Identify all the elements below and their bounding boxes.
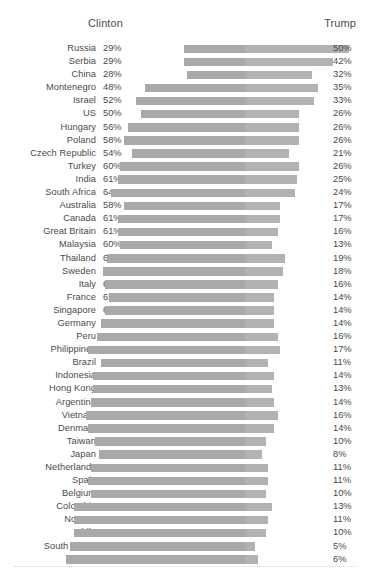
bar-segment-clinton (66, 555, 245, 564)
bar-segment-trump (245, 385, 272, 394)
bar-segment-trump (245, 398, 274, 407)
chart-row: China28%32% (0, 69, 370, 82)
bar-segment-trump (245, 215, 280, 224)
chart-row: Brazil69%11% (0, 357, 370, 370)
country-label: Peru (0, 331, 96, 342)
country-label: Singapore (0, 305, 96, 316)
bar-segment-clinton (118, 228, 245, 237)
chart-row: Indonesia73%14% (0, 370, 370, 383)
bar (187, 71, 312, 80)
trump-value: 26% (333, 108, 363, 119)
bar-track (136, 346, 328, 355)
bar-segment-clinton (86, 411, 245, 420)
trump-value: 25% (333, 174, 363, 185)
bar (93, 372, 275, 381)
bar-segment-trump (245, 136, 299, 145)
chart-header: Clinton Trump (0, 17, 370, 35)
bar-segment-trump (245, 437, 266, 446)
chart-row: Malaysia60%13% (0, 239, 370, 252)
legend-label-trump: Trump (324, 17, 356, 29)
bar (136, 97, 313, 106)
bar-segment-clinton (109, 293, 245, 302)
trump-value: 5% (333, 541, 363, 552)
trump-value: 14% (333, 397, 363, 408)
bar-segment-trump (245, 84, 318, 93)
bar-segment-clinton (88, 346, 245, 355)
bar-segment-clinton (105, 280, 245, 289)
bar-segment-trump (245, 346, 280, 355)
bar-segment-trump (245, 280, 278, 289)
bar-segment-clinton (145, 84, 245, 93)
bar-segment-trump (245, 202, 280, 211)
bar (118, 228, 279, 237)
chart-row: Chile82%10% (0, 527, 370, 540)
country-label: Netherlands (0, 462, 96, 473)
bar (86, 411, 278, 420)
bar-track (136, 450, 328, 459)
bar-track (136, 333, 328, 342)
trump-value: 10% (333, 436, 363, 447)
trump-value: 11% (333, 357, 363, 368)
country-label: Canada (0, 213, 96, 224)
trump-value: 14% (333, 305, 363, 316)
bar-track (136, 123, 328, 132)
country-label: Philippines (0, 344, 96, 355)
bar-track (136, 84, 328, 93)
clinton-value: 52% (103, 95, 129, 106)
chart-row: France65%14% (0, 292, 370, 305)
country-label: Poland (0, 135, 96, 146)
country-label: South Africa (0, 187, 96, 198)
chart-row: Australia58%17% (0, 200, 370, 213)
country-label: Serbia (0, 56, 96, 67)
bar-segment-trump (245, 359, 268, 368)
chart-row: Norway82%11% (0, 514, 370, 527)
bar (91, 398, 275, 407)
bar-segment-clinton (74, 516, 245, 525)
bar (74, 516, 268, 525)
bar (66, 555, 258, 564)
bar-segment-clinton (93, 372, 245, 381)
bar (124, 202, 281, 211)
bar-track (136, 241, 328, 250)
trump-value: 11% (333, 462, 363, 473)
bar (105, 280, 278, 289)
country-label: Italy (0, 279, 96, 290)
bar-segment-trump (245, 228, 278, 237)
bar-segment-trump (245, 319, 274, 328)
chart-row: Vietnam76%16% (0, 410, 370, 423)
chart-row: Sweden68%18% (0, 266, 370, 279)
bar-segment-clinton (91, 464, 245, 473)
chart-row: India61%25% (0, 174, 370, 187)
trump-value: 17% (333, 213, 363, 224)
footer-divider (14, 566, 356, 568)
bar (101, 319, 274, 328)
bar-segment-clinton (88, 477, 245, 486)
country-label: Hungary (0, 122, 96, 133)
chart-row: Great Britain61%16% (0, 226, 370, 239)
chart-row: Israel52%33% (0, 95, 370, 108)
trump-value: 17% (333, 200, 363, 211)
bar-track (136, 372, 328, 381)
chart-row: Canada61%17% (0, 213, 370, 226)
bar-segment-clinton (101, 319, 245, 328)
bar-track (136, 503, 328, 512)
bar-segment-clinton (141, 110, 245, 119)
bar (141, 110, 300, 119)
trump-value: 11% (333, 514, 363, 525)
bar-segment-trump (245, 110, 299, 119)
trump-value: 16% (333, 331, 363, 342)
trump-value: 17% (333, 344, 363, 355)
clinton-value: 29% (103, 43, 129, 54)
bar-segment-trump (245, 411, 278, 420)
country-label: Czech Republic (0, 148, 96, 159)
trump-value: 11% (333, 475, 363, 486)
bar (111, 189, 295, 198)
bar-track (136, 228, 328, 237)
country-label: India (0, 174, 96, 185)
bar-segment-trump (245, 241, 272, 250)
bar-track (136, 359, 328, 368)
bar-track (136, 424, 328, 433)
bar-segment-trump (245, 477, 268, 486)
chart-row: Taiwan72%10% (0, 436, 370, 449)
trump-value: 18% (333, 266, 363, 277)
